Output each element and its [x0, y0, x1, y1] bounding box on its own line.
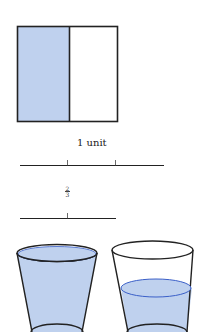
partial-cup: [112, 241, 193, 332]
full-cup: [17, 245, 97, 332]
area-model-square: [0, 0, 209, 130]
cups-illustration: [0, 230, 209, 332]
unit-label: 1 unit: [77, 137, 107, 148]
fraction-denominator: 3: [63, 192, 72, 197]
number-lines: [0, 150, 209, 230]
partial-cup-rim: [112, 241, 193, 259]
partial-cup-water-surface: [121, 279, 191, 297]
fraction-label: 2 3: [63, 186, 72, 197]
shaded-half: [18, 27, 70, 122]
